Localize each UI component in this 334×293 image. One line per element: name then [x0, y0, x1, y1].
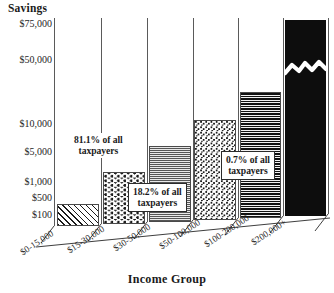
bar-0-15000	[57, 204, 99, 226]
y-tick-label-75000: $75,000	[0, 19, 52, 29]
x-tick-label-0-15000: $0-15,000	[19, 229, 56, 257]
annotation-18-percent-line2: taxpayers	[133, 197, 182, 208]
y-tick-label-100: $100	[0, 210, 52, 220]
y-tick-label-10000: $10,000	[0, 119, 52, 129]
x-axis-title: Income Group	[0, 272, 334, 287]
y-tick-label-5000: $5,000	[0, 147, 52, 157]
savings-by-income-group-chart: Savings $75,000 $50,000 $10,000 $5,000 $…	[0, 0, 334, 293]
y-tick-label-500: $500	[0, 193, 52, 203]
y-tick-label-50000: $50,000	[0, 55, 52, 65]
category-rule-5	[238, 18, 239, 218]
annotation-07-percent: 0.7% of all taxpayers	[221, 151, 275, 180]
category-rule-2	[101, 18, 102, 224]
plot-area	[54, 18, 330, 230]
annotation-81-percent: 81.1% of all taxpayers	[72, 133, 125, 158]
category-rule-7	[328, 18, 329, 214]
annotation-81-percent-line1: 81.1% of all	[74, 134, 123, 145]
annotation-81-percent-line2: taxpayers	[74, 145, 123, 156]
category-rule-6	[283, 18, 284, 216]
annotation-18-percent: 18.2% of all taxpayers	[128, 183, 187, 212]
category-rule-1	[54, 18, 55, 226]
annotation-07-percent-line1: 0.7% of all	[226, 154, 270, 165]
y-tick-label-1000: $1,000	[0, 177, 52, 187]
bar-200000-plus	[285, 20, 326, 216]
annotation-07-percent-line2: taxpayers	[226, 165, 270, 176]
annotation-18-percent-line1: 18.2% of all	[133, 186, 182, 197]
y-axis-title: Savings	[8, 2, 47, 14]
